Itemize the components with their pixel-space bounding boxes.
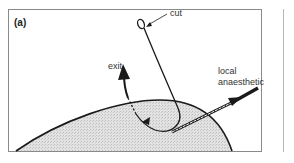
anaesthetic-label-line1: local	[218, 66, 237, 76]
cut-label: cut	[170, 8, 182, 18]
cut-pointer	[148, 14, 167, 25]
panel-label: (a)	[14, 17, 26, 28]
exit-label: exit	[108, 61, 122, 71]
skin-surface	[16, 100, 232, 151]
anaesthetic-label-line2: anaesthetic	[218, 77, 264, 87]
